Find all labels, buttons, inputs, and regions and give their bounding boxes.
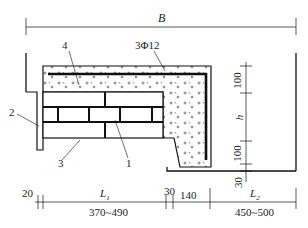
dim-20: 20: [22, 188, 33, 199]
dim-30: 30: [164, 186, 175, 197]
range-450-500: 450~500: [235, 207, 274, 218]
dim-h: h: [234, 115, 245, 121]
callout-4: 4: [62, 40, 68, 51]
dim-B: B: [158, 12, 165, 24]
dim-100-bottom: 100: [232, 145, 243, 162]
section-drawing: [0, 0, 308, 228]
dim-L2: L2: [250, 188, 260, 202]
rebar-label: 3Φ12: [135, 40, 160, 51]
callout-2: 2: [9, 107, 15, 118]
dim-100-top: 100: [232, 72, 243, 89]
callout-3: 3: [58, 158, 64, 169]
callout-1: 1: [126, 158, 132, 169]
dim-140: 140: [180, 190, 197, 201]
range-370-490: 370~490: [89, 207, 128, 218]
dim-30-vertical: 30: [233, 177, 244, 188]
dim-L1: L1: [100, 188, 110, 202]
